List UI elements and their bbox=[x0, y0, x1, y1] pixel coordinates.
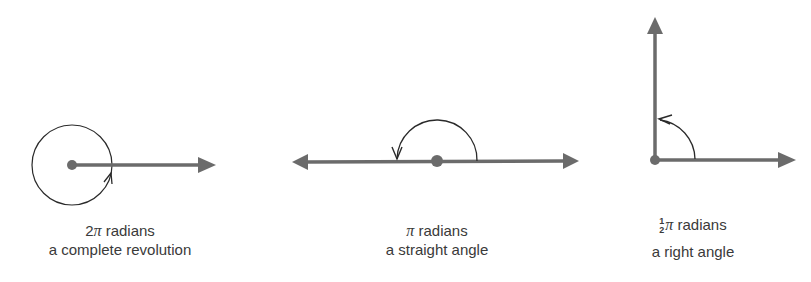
angle-description: a complete revolution bbox=[40, 240, 200, 259]
radian-measure: 12π radians bbox=[623, 213, 763, 237]
one-half-fraction: 12 bbox=[659, 217, 664, 235]
radian-measure: π radians bbox=[357, 221, 517, 240]
half-turn-arc bbox=[397, 120, 477, 161]
right-arrowhead-icon bbox=[778, 152, 796, 168]
angle-description: a right angle bbox=[623, 242, 763, 261]
up-arrowhead-icon bbox=[647, 17, 663, 34]
vertex-dot bbox=[650, 155, 660, 165]
straight-angle-label: π radians a straight angle bbox=[357, 221, 517, 259]
vertex-dot bbox=[431, 155, 443, 167]
straight-angle-figure bbox=[292, 120, 579, 170]
complete-revolution-figure bbox=[32, 125, 216, 205]
left-arrowhead-icon bbox=[292, 154, 308, 170]
arrowhead-icon bbox=[198, 157, 216, 173]
angle-description: a straight angle bbox=[357, 240, 517, 259]
right-arrowhead-icon bbox=[563, 153, 579, 169]
radian-measure: 2π radians bbox=[40, 221, 200, 240]
quarter-turn-arc bbox=[660, 120, 695, 159]
right-angle-figure bbox=[647, 17, 796, 168]
vertex-dot bbox=[67, 160, 77, 170]
right-angle-label: 12π radians a right angle bbox=[623, 213, 763, 261]
complete-revolution-label: 2π radians a complete revolution bbox=[40, 221, 200, 259]
